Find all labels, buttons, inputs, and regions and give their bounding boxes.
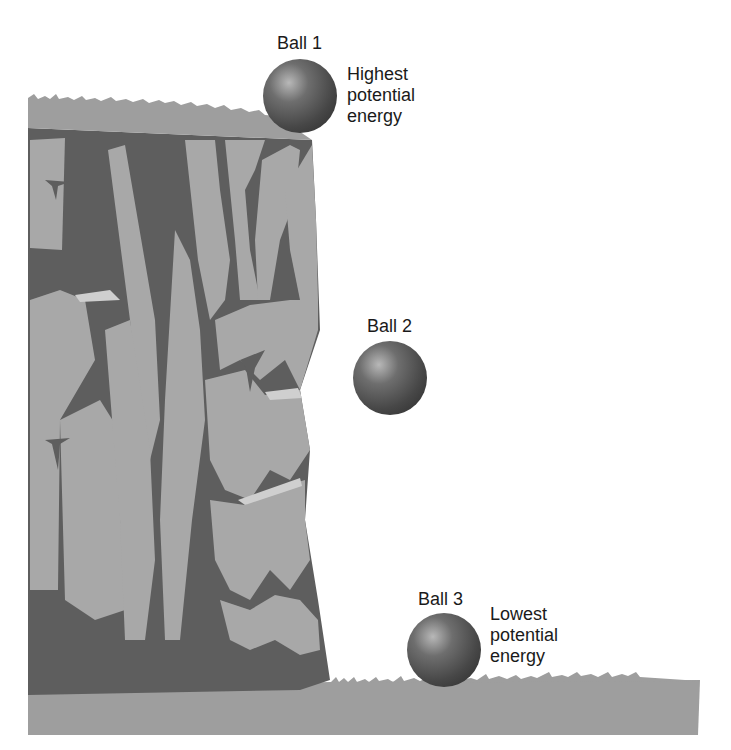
ball-2: [353, 341, 427, 415]
ball-1-description: Highest potential energy: [347, 64, 415, 127]
ball-1-label: Ball 1: [277, 33, 322, 54]
ball-3-description: Lowest potential energy: [490, 604, 558, 667]
ball-2-label: Ball 2: [367, 316, 412, 337]
ball-1-description-line: Highest: [347, 64, 415, 85]
cliff: [28, 94, 330, 695]
ball-3-description-line: potential: [490, 625, 558, 646]
ball-3-description-line: Lowest: [490, 604, 558, 625]
ball-3-description-line: energy: [490, 646, 558, 667]
ball-1: [263, 59, 337, 133]
ball-3: [407, 613, 481, 687]
ball-1-description-line: energy: [347, 106, 415, 127]
ball-3-label: Ball 3: [418, 589, 463, 610]
ball-1-description-line: potential: [347, 85, 415, 106]
